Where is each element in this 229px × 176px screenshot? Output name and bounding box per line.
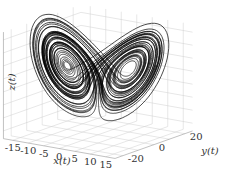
x-tick-label: 10 [84, 156, 97, 167]
y-tick-label: 20 [190, 131, 203, 142]
x-tick-label: -15 [5, 142, 21, 153]
y-tick-label: -20 [128, 153, 144, 164]
x-tick-label: -10 [20, 145, 36, 156]
lorenz-3d-plot: 151050-5-10-15-20 -15-10-5051015 -20020 … [0, 0, 229, 176]
z-axis-label: z(t) [6, 73, 17, 91]
y-tick-label: 0 [159, 142, 165, 153]
y-axis-label: y(t) [200, 145, 219, 156]
x-tick-label: 15 [99, 159, 112, 170]
x-axis-label: x(t) [53, 155, 71, 166]
x-tick-label: 5 [72, 153, 78, 164]
x-tick-label: -5 [39, 148, 49, 159]
